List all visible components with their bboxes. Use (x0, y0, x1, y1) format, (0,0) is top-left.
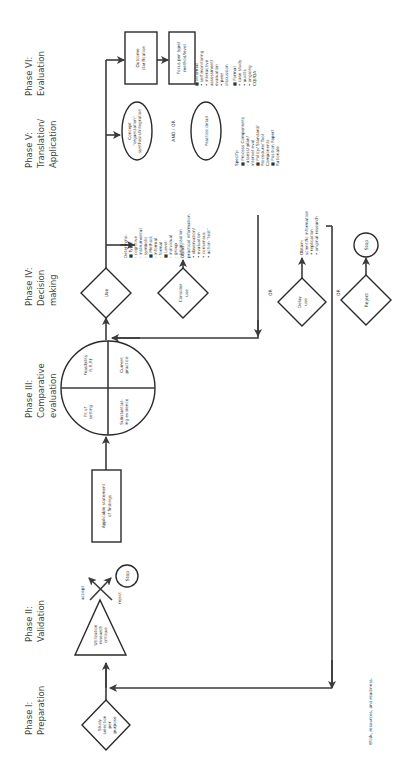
phase-header-ii: Phase II: Validation (24, 600, 46, 642)
svg-text:Phase V:: Phase V: (24, 132, 34, 168)
phase2-stop-circle: Stop (116, 565, 138, 587)
svg-text:ing evidence: ing evidence (124, 398, 129, 425)
svg-text:evaluation: evaluation (48, 373, 58, 418)
svg-text:synthesis/integration: synthesis/integration (137, 109, 142, 153)
consider-obtain-list: Obtain: practical information • observat… (180, 214, 211, 258)
comparative-evaluation-circle: Fit of setting Feasibility R,R,R† Substa… (61, 341, 155, 435)
svg-text:R,R,R†: R,R,R† (88, 358, 93, 372)
outcome-clarification-box: Outcome clarification (125, 32, 157, 84)
consider-use-diamond: Consider use (158, 268, 208, 318)
svg-text:CQI/QA: CQI/QA (252, 71, 257, 86)
study-selection-diamond: Study selection per purpose (82, 700, 130, 750)
svg-text:use: use (303, 298, 308, 306)
svg-text:Decision: Decision (36, 270, 46, 306)
utilization-critique-triangle: Utilization research critique (75, 600, 126, 655)
focus-box: Focus per type/ method/level (169, 32, 195, 84)
svg-text:Phase IV:: Phase IV: (24, 267, 34, 306)
phase-header-v: Phase V: Translation/ Application (24, 119, 58, 169)
svg-text:Phase I:: Phase I: (24, 702, 34, 735)
phase-header-i: Phase I: Preparation (24, 686, 46, 735)
stetler-model-diagram: Phase VI: Evaluation Phase V: Translatio… (0, 0, 405, 773)
svg-text:Outcome: Outcome (135, 48, 140, 68)
svg-text:Phase III:: Phase III: (24, 380, 34, 418)
svg-text:Reject: Reject (364, 293, 369, 307)
svg-text:of findings: of findings (107, 495, 112, 517)
svg-text:setting: setting (88, 404, 93, 419)
phase-header-vi: Phase VI: Evaluation (24, 51, 46, 96)
svg-text:Use: Use (104, 289, 109, 298)
reject-diamond: Reject (341, 275, 391, 325)
phase4-stop-circle: Stop (354, 233, 378, 257)
quadrant-substantiating-evidence: Substantiat- ing evidence (119, 398, 129, 425)
findings-box: Applicable statement of findings (92, 470, 121, 542)
svg-text:use: use (184, 289, 189, 297)
svg-text:purpose: purpose (112, 716, 117, 733)
quadrant-current-practice: Current practice (119, 356, 129, 373)
svg-text:Focus per type/: Focus per type/ (176, 41, 181, 74)
footnote: †Risk, resources, and readiness. (368, 678, 373, 745)
svg-text:Applicable statement: Applicable statement (101, 483, 106, 528)
concept-ellipse: Concept "organization" synthesis/integra… (122, 102, 152, 160)
or-label: OR (268, 288, 273, 296)
svg-text:clarification: clarification (141, 45, 146, 70)
evaluation-list: ■ Informal • self monitoring • interacti… (194, 50, 257, 86)
svg-text:practice: practice (124, 356, 129, 373)
svg-text:discussion: discussion (224, 64, 229, 86)
phase-header-iii: Phase III: Comparative evaluation (24, 363, 58, 418)
practice-detail-ellipse: Practice detail (191, 102, 221, 160)
svg-text:Consider: Consider (178, 284, 183, 303)
svg-text:Phase VI:: Phase VI: (24, 57, 34, 96)
svg-text:Stop: Stop (364, 240, 369, 251)
accept-label: accept (80, 586, 85, 600)
svg-text:method/level: method/level (182, 44, 187, 72)
svg-text:Delay: Delay (297, 295, 302, 308)
specify-list: Specify: ■ Process Components - assess/ … (234, 117, 280, 166)
or-label: OR (336, 288, 341, 296)
svg-text:Stop: Stop (125, 571, 130, 582)
svg-text:Evaluation: Evaluation (36, 51, 46, 96)
svg-text:Preparation: Preparation (36, 686, 46, 735)
phase-header-iv: Phase IV: Decision making (24, 267, 58, 306)
reject-label: reject (117, 592, 122, 604)
use-determine-list: Determine: ■ Type: - cognitive - instrum… (123, 228, 183, 258)
svg-text:Specify:: Specify: (234, 150, 239, 166)
svg-text:making: making (48, 274, 58, 306)
and-or-label: AND / OR (171, 120, 176, 142)
svg-text:Phase II:: Phase II: (24, 606, 34, 642)
svg-text:Comparative: Comparative (36, 363, 46, 418)
svg-text:critique: critique (103, 627, 108, 643)
svg-text:Rationale: Rationale (275, 146, 280, 166)
svg-text:• original research: • original research (314, 216, 319, 255)
svg-text:Application: Application (48, 121, 58, 169)
svg-text:Obtain:: Obtain: (180, 243, 185, 258)
svg-text:• action "test": • action "test" (206, 228, 211, 258)
use-diamond: Use (81, 268, 131, 318)
svg-text:Validation: Validation (36, 600, 46, 642)
svg-text:Translation/: Translation/ (36, 119, 46, 169)
delay-use-diamond: Delay use (278, 278, 326, 326)
delay-obtain-list: Obtain: scientific information • replica… (299, 211, 319, 255)
svg-text:Practice detail: Practice detail (204, 116, 209, 146)
